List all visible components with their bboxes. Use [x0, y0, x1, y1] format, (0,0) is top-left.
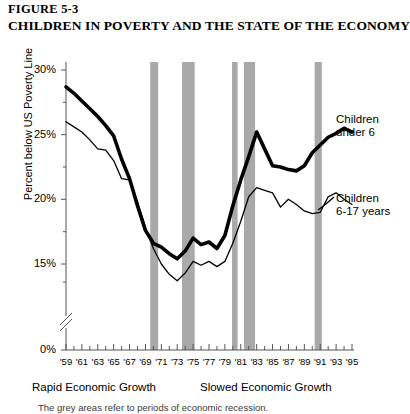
series-line-1 — [66, 87, 352, 259]
series-label-children-6-17: Children 6-17 years — [336, 192, 390, 218]
recession-band — [182, 62, 195, 350]
era-label-rapid-growth: Rapid Economic Growth — [32, 381, 156, 393]
recession-band — [150, 62, 158, 350]
recession-bands-group — [150, 62, 322, 350]
footnote: The grey areas refer to periods of econo… — [38, 402, 268, 413]
y-axis-tick-label: 25% — [22, 128, 56, 140]
y-axis-tick-label: 20% — [22, 192, 56, 204]
axes-group — [60, 62, 354, 350]
recession-band — [315, 62, 322, 350]
series-lines-group — [66, 87, 352, 281]
series-label-line2: 6-17 years — [336, 205, 390, 218]
y-axis-tick-label: 30% — [22, 63, 56, 75]
y-axis-tick-label: 0% — [22, 343, 56, 355]
series-label-line1: Children — [336, 113, 379, 126]
series-label-children-under-6: Children under 6 — [336, 113, 379, 139]
series-line-2 — [66, 122, 352, 281]
series-label-line1: Children — [336, 192, 390, 205]
era-label-slowed-growth: Slowed Economic Growth — [200, 381, 332, 393]
y-axis-tick-label: 15% — [22, 257, 56, 269]
x-axis-tick-label: '95 — [342, 356, 362, 367]
series-label-line2: under 6 — [336, 126, 379, 139]
